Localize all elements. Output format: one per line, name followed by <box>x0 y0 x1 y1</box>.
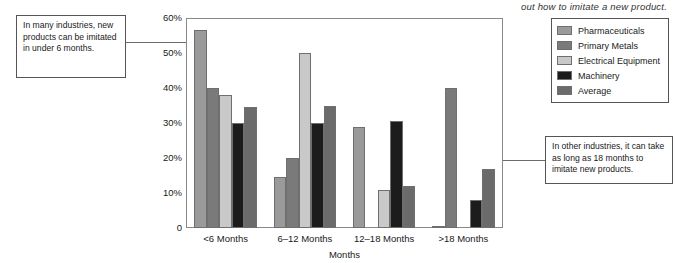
x-axis-tick-label: 12–18 Months <box>345 233 424 244</box>
callout-right-text: In other industries, it can take as long… <box>552 141 667 176</box>
bar-group <box>265 18 344 228</box>
y-axis-tick-label: 40% <box>148 82 182 93</box>
bar <box>353 127 366 229</box>
legend-swatch <box>557 86 572 95</box>
bar-groups <box>186 18 503 228</box>
bar <box>207 88 220 228</box>
bar <box>232 123 245 228</box>
bar <box>470 200 483 228</box>
legend-label: Pharmaceuticals <box>578 26 645 36</box>
callout-over-18-months: In other industries, it can take as long… <box>545 136 673 184</box>
bar <box>482 169 495 229</box>
bar-group <box>424 18 503 228</box>
legend-swatch <box>557 41 572 50</box>
bar <box>432 226 445 228</box>
y-axis-tick-label: 0 <box>148 222 182 233</box>
y-axis-tick-labels: 010%20%30%40%50%60% <box>146 18 182 228</box>
legend-label: Average <box>578 86 611 96</box>
bar <box>219 95 232 228</box>
running-caption-text: out how to imitate a new product. <box>521 1 667 12</box>
x-axis-title: Months <box>186 249 503 260</box>
callout-left-text: In many industries, new products can be … <box>23 20 120 55</box>
y-axis-tick-label: 50% <box>148 47 182 58</box>
y-axis-tick-label: 10% <box>148 187 182 198</box>
y-axis-tick-label: 30% <box>148 117 182 128</box>
bar <box>378 190 391 229</box>
x-axis-tick-label: 6–12 Months <box>265 233 344 244</box>
bar-group <box>186 18 265 228</box>
legend-item: Average <box>557 83 664 98</box>
legend-swatch <box>557 71 572 80</box>
legend-swatch <box>557 56 572 65</box>
legend-label: Machinery <box>578 71 620 81</box>
legend-label: Primary Metals <box>578 41 638 51</box>
bar <box>286 158 299 228</box>
bar <box>274 177 287 228</box>
callout-under-6-months: In many industries, new products can be … <box>16 15 126 78</box>
bar <box>299 53 312 228</box>
bar-group <box>345 18 424 228</box>
legend-item: Pharmaceuticals <box>557 23 664 38</box>
y-axis-tick-label: 20% <box>148 152 182 163</box>
legend-item: Primary Metals <box>557 38 664 53</box>
bar <box>194 30 207 228</box>
x-axis-tick-label: <6 Months <box>186 233 265 244</box>
chart-legend: PharmaceuticalsPrimary MetalsElectrical … <box>551 18 669 103</box>
bar <box>311 123 324 228</box>
bar <box>244 107 257 228</box>
x-axis-tick-label: >18 Months <box>424 233 503 244</box>
chart-figure: leak out? Journal of Industrial Economic… <box>0 0 675 263</box>
legend-label: Electrical Equipment <box>578 56 660 66</box>
legend-swatch <box>557 26 572 35</box>
bar <box>324 106 337 229</box>
bar <box>403 186 416 228</box>
legend-item: Machinery <box>557 68 664 83</box>
bar <box>445 88 458 228</box>
plot-area <box>186 18 503 228</box>
legend-item: Electrical Equipment <box>557 53 664 68</box>
y-axis-tick-label: 60% <box>148 12 182 23</box>
bar <box>390 121 403 228</box>
